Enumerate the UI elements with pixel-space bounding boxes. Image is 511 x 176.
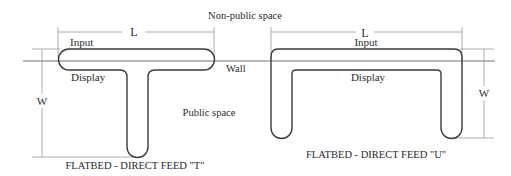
u-layout: L W Input Display FLATBED - DIRECT FEED … (271, 26, 494, 160)
t-input-label: Input (70, 36, 93, 48)
u-input-label: Input (354, 36, 377, 48)
non-public-space-label: Non-public space (208, 10, 282, 21)
t-display-label: Display (71, 71, 106, 83)
flatbed-direct-feed-diagram: L W Input Display FLATBED - DIRECT FEED … (0, 0, 511, 176)
t-shape-outline (59, 49, 215, 158)
t-length-label: L (130, 25, 137, 39)
public-space-label: Public space (183, 107, 236, 118)
t-title: FLATBED - DIRECT FEED "T" (65, 160, 204, 171)
u-display-label: Display (351, 71, 386, 83)
u-shape-outline (271, 49, 462, 139)
wall-label: Wall (226, 63, 246, 74)
u-width-label: W (479, 87, 490, 99)
u-title: FLATBED - DIRECT FEED "U" (306, 149, 446, 160)
t-width-label: W (37, 95, 48, 107)
t-layout: L W Input Display FLATBED - DIRECT FEED … (32, 25, 215, 171)
